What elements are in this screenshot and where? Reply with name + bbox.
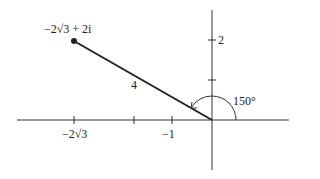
angle-label: 150° — [233, 95, 256, 107]
x-tick-label-neg-1: −1 — [162, 128, 175, 140]
modulus-label: 4 — [131, 79, 137, 91]
angle-arc — [191, 96, 236, 120]
point-label: −2√3 + 2i — [44, 23, 91, 35]
y-tick-label-2: 2 — [218, 34, 224, 46]
x-tick-label-neg-2sqrt3: −2√3 — [62, 128, 87, 140]
point-marker — [71, 38, 77, 44]
